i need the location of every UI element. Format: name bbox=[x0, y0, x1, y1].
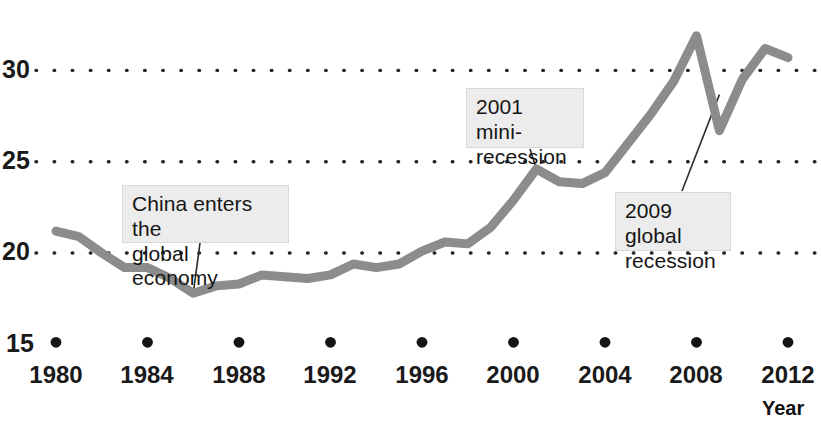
chart-container: 30 25 20 15 1980 1984 1988 1992 1996 200… bbox=[0, 0, 821, 427]
annotation-mini-recession-2001: 2001 mini- recession bbox=[466, 88, 584, 148]
xtick-label-2000: 2000 bbox=[486, 363, 539, 387]
x-tick-dot-2004 bbox=[600, 337, 611, 348]
xtick-label-1980: 1980 bbox=[29, 363, 82, 387]
xtick-label-2008: 2008 bbox=[669, 363, 722, 387]
ytick-label-25: 25 bbox=[2, 148, 30, 173]
x-tick-dot-2000 bbox=[508, 337, 519, 348]
x-tick-dot-2008 bbox=[691, 337, 702, 348]
x-tick-dot-1992 bbox=[325, 337, 336, 348]
x-tick-dot-1984 bbox=[142, 337, 153, 348]
annotation-china-entry: China enters the global economy bbox=[122, 185, 289, 243]
ytick-label-30: 30 bbox=[2, 57, 30, 82]
x-tick-dot-1988 bbox=[234, 337, 245, 348]
xtick-label-1984: 1984 bbox=[120, 363, 173, 387]
x-tick-dot-2012 bbox=[783, 337, 794, 348]
ytick-label-20: 20 bbox=[2, 239, 30, 264]
x-axis-title: Year bbox=[762, 398, 804, 418]
xtick-label-1988: 1988 bbox=[212, 363, 265, 387]
x-tick-dot-1996 bbox=[417, 337, 428, 348]
x-tick-markers bbox=[51, 337, 794, 348]
annotation-global-recession-2009: 2009 global recession bbox=[615, 192, 731, 251]
xtick-label-2012: 2012 bbox=[761, 363, 814, 387]
xtick-label-1992: 1992 bbox=[303, 363, 356, 387]
xtick-label-1996: 1996 bbox=[395, 363, 448, 387]
x-tick-dot-1980 bbox=[51, 337, 62, 348]
ytick-label-15: 15 bbox=[6, 331, 34, 356]
xtick-label-2004: 2004 bbox=[578, 363, 631, 387]
